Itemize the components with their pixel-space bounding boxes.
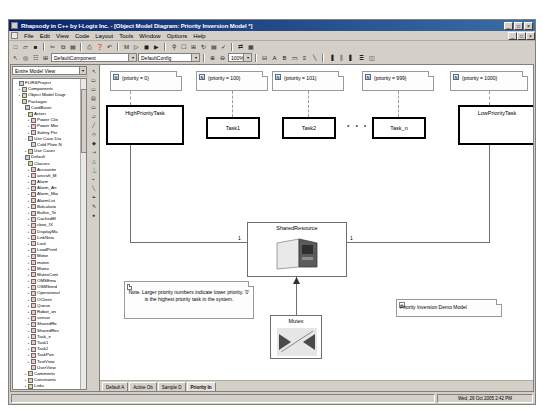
browser-toggle-icon[interactable]: ☷ [31, 53, 40, 62]
menu-item-options[interactable]: Options [164, 33, 191, 39]
assoc-high-vertical[interactable] [130, 145, 131, 242]
zoom-page-icon[interactable]: ☐ [179, 42, 188, 51]
menu-item-layout[interactable]: Layout [92, 33, 116, 39]
port-tool-icon[interactable]: ▪ [89, 175, 98, 183]
mdi-restore-button[interactable]: □ [517, 32, 526, 40]
tab-priority-inversion[interactable]: Priority In [187, 382, 216, 391]
scrollbar-thumb[interactable] [81, 89, 87, 153]
distribute-icon[interactable]: ≣ [357, 53, 366, 62]
class-task1[interactable]: Task1 [206, 117, 260, 139]
tree-node[interactable]: +Object Model [14, 389, 86, 390]
model-tree[interactable]: -FLIRSProject+Components+Object Model Di… [12, 78, 87, 390]
menu-item-edit[interactable]: Edit [37, 33, 53, 39]
menu-item-file[interactable]: File [21, 33, 37, 39]
close-button[interactable]: × [524, 22, 533, 30]
class-task-n[interactable]: Task_n [372, 117, 426, 139]
align-right-icon[interactable]: ▌ [347, 53, 356, 62]
actor-tool-icon[interactable]: ▭ [89, 103, 98, 111]
grid-icon[interactable]: ⊞ [41, 53, 50, 62]
chevron-down-icon[interactable]: ▾ [79, 67, 86, 74]
chevron-down-icon[interactable]: ▾ [191, 54, 199, 61]
generalize-tool-icon[interactable]: △ [89, 157, 98, 165]
bold-icon[interactable]: B [280, 53, 289, 62]
priority-note-tn[interactable]: N {priority = 999} [362, 71, 434, 91]
paste-icon[interactable]: ▤ [68, 42, 77, 51]
association-tool-icon[interactable]: ╱ [89, 121, 98, 129]
expand-toggle-icon[interactable]: + [23, 389, 28, 390]
find-icon[interactable]: ⚲ [169, 42, 178, 51]
generate-code-icon[interactable]: M [122, 42, 131, 51]
class-high-priority-task[interactable]: HighPriorityTask [106, 105, 184, 145]
pointer-tool-icon[interactable]: ↖ [89, 67, 98, 75]
stamp-tool-icon[interactable]: ● [89, 211, 98, 219]
grid-snap-icon[interactable]: ⊞ [189, 42, 198, 51]
copy-icon[interactable]: ⧉ [58, 42, 67, 51]
stop-icon[interactable]: ◼ [142, 42, 151, 51]
zoom-in-icon[interactable]: ⊕ [208, 53, 217, 62]
priority-note-low[interactable]: N {priority = 1000} [450, 71, 528, 91]
mdi-minimize-button[interactable]: _ [508, 32, 517, 40]
print-icon[interactable]: ⎙ [85, 42, 94, 51]
check-model-icon[interactable]: ✓ [219, 42, 228, 51]
class-mutex[interactable]: Mutex [270, 315, 322, 359]
component-combo[interactable]: DefaultComponent ▾ [51, 53, 137, 62]
note-tool-icon[interactable]: ▱ [89, 112, 98, 120]
select-arrow-icon[interactable]: ↖ [11, 53, 20, 62]
build-icon[interactable]: ▷ [132, 42, 141, 51]
menu-item-code[interactable]: Code [72, 33, 92, 39]
roundtrip-icon[interactable]: ⇄ [236, 42, 245, 51]
link-tool-icon[interactable]: ╲ [89, 184, 98, 192]
help-pointer-icon[interactable]: ❓ [95, 42, 104, 51]
assoc-low-vertical[interactable] [489, 145, 490, 242]
tree-vertical-scrollbar[interactable] [80, 79, 86, 389]
animate-icon[interactable]: ▶ [152, 42, 161, 51]
tab-active-ob[interactable]: Active Ob [129, 382, 157, 391]
new-document-icon[interactable]: □ [11, 42, 20, 51]
align-left-icon[interactable]: ▐ [327, 53, 336, 62]
assoc-high-horizontal[interactable] [130, 242, 248, 243]
zoom-fit-icon[interactable]: ◎ [21, 53, 30, 62]
composition-tool-icon[interactable]: ◆ [89, 139, 98, 147]
layers-icon[interactable]: ◫ [367, 53, 376, 62]
fit-window-icon[interactable]: ⊟ [260, 53, 269, 62]
package-tool-icon[interactable]: ▤ [89, 94, 98, 102]
menu-item-tools[interactable]: Tools [116, 33, 136, 39]
priority-note-high[interactable]: N {priority = 0} [110, 71, 182, 91]
dependency-tool-icon[interactable]: ⇢ [89, 148, 98, 156]
menu-item-window[interactable]: Window [136, 33, 163, 39]
priority-note-t2[interactable]: N {priority = 101} [272, 71, 344, 91]
align-icon[interactable]: ≡ [300, 53, 309, 62]
freehand-tool-icon[interactable]: ✎ [89, 202, 98, 210]
report-icon[interactable]: ▦ [246, 42, 255, 51]
save-icon[interactable]: ■ [31, 42, 40, 51]
priority-note-t1[interactable]: N {priority = 100} [196, 71, 268, 91]
properties-icon[interactable]: ▤ [209, 42, 218, 51]
box-icon[interactable]: ▭ [290, 53, 299, 62]
undo-icon[interactable]: ↶ [105, 42, 114, 51]
line-icon[interactable]: ╲ [310, 53, 319, 62]
cut-icon[interactable]: ✂ [48, 42, 57, 51]
tab-default-a[interactable]: Default A [102, 382, 128, 391]
chevron-down-icon[interactable]: ▾ [243, 54, 251, 61]
mdi-close-button[interactable]: × [526, 32, 535, 40]
browser-view-combo[interactable]: Entire Model View ▾ [12, 66, 87, 75]
chevron-down-icon[interactable]: ▾ [128, 54, 136, 61]
diagram-canvas[interactable]: N {priority = 0} N {priority = 100} N {p… [100, 65, 533, 380]
text-style-icon[interactable]: A [270, 53, 279, 62]
object-tool-icon[interactable]: ▭ [89, 85, 98, 93]
config-combo[interactable]: DefaultConfig ▾ [138, 53, 200, 62]
model-label-note[interactable]: □ Priority Inversion Demo Model [396, 299, 502, 317]
zoom-combo[interactable]: 100% ▾ [228, 53, 252, 62]
diagram-note[interactable]: Note. Larger priority numbers indicate l… [124, 281, 254, 319]
menu-item-view[interactable]: View [53, 33, 72, 39]
class-task2[interactable]: Task2 [282, 117, 336, 139]
aggregation-tool-icon[interactable]: ◇ [89, 130, 98, 138]
tab-sample-d[interactable]: Sample D [158, 382, 186, 391]
assoc-low-horizontal[interactable] [347, 242, 490, 243]
menu-item-help[interactable]: Help [190, 33, 208, 39]
minimize-button[interactable]: _ [504, 22, 513, 30]
align-center-icon[interactable]: ║ [337, 53, 346, 62]
refresh-icon[interactable]: ↻ [199, 42, 208, 51]
class-low-priority-task[interactable]: LowPriorityTask [458, 105, 533, 145]
zoom-out-icon[interactable]: ⊖ [218, 53, 227, 62]
